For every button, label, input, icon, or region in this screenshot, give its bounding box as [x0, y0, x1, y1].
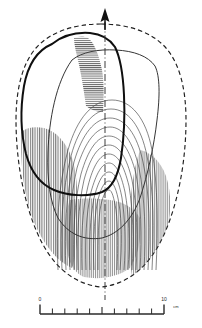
scale-min-label: 0: [39, 296, 42, 302]
hatch-upper-central: [70, 32, 110, 118]
scale-bar: 0 10 cm: [39, 296, 180, 314]
scale-unit-label: cm: [173, 304, 179, 309]
scale-max-label: 10: [161, 296, 167, 302]
north-arrow: [101, 8, 110, 30]
figure-container: 0 10 cm: [0, 0, 202, 328]
line-drawing-canvas: 0 10 cm: [0, 0, 202, 328]
